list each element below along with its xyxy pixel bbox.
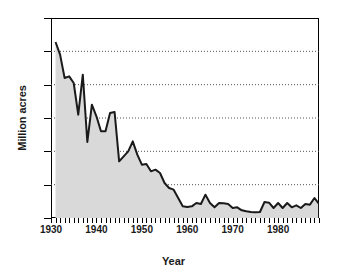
x-axis-tick-label: 1960	[167, 224, 207, 235]
x-axis-tick-mark	[228, 218, 229, 223]
x-axis-tick-mark	[301, 218, 302, 223]
x-axis-tick-mark	[314, 218, 315, 223]
x-axis-tick-mark	[305, 218, 306, 223]
x-axis-tick-mark	[74, 218, 75, 223]
y-axis-tick-mark	[44, 185, 51, 186]
x-axis-tick-label: 1930	[31, 224, 71, 235]
x-axis-tick-mark	[219, 218, 220, 223]
x-axis-tick-mark	[246, 218, 247, 223]
x-axis-tick-mark	[251, 218, 252, 223]
x-axis-tick-mark	[87, 218, 88, 223]
x-axis-tick-mark	[155, 218, 156, 223]
x-axis-tick-mark	[215, 218, 216, 223]
x-axis-tick-mark	[174, 218, 175, 223]
x-axis-tick-mark	[260, 218, 261, 223]
x-axis-tick-mark	[287, 218, 288, 223]
x-axis-tick-mark	[101, 218, 102, 223]
x-axis-tick-mark	[133, 218, 134, 223]
y-axis-tick-mark	[44, 218, 51, 219]
x-axis-tick-mark	[242, 218, 243, 223]
area-fill	[56, 42, 319, 218]
x-axis-tick-mark	[255, 218, 256, 223]
x-axis-tick-mark	[310, 218, 311, 223]
x-axis-tick-label: 1950	[122, 224, 162, 235]
chart-container: Million acres 0102030405060 193019401950…	[0, 0, 347, 280]
x-axis-tick-mark	[178, 218, 179, 223]
y-axis-title: Million acres	[16, 58, 28, 178]
x-axis-tick-mark	[196, 218, 197, 223]
x-axis-tick-mark	[96, 218, 97, 223]
x-axis-tick-mark	[110, 218, 111, 223]
x-axis-tick-mark	[274, 218, 275, 223]
x-axis-tick-mark	[142, 218, 143, 223]
x-axis-tick-label: 1970	[213, 224, 253, 235]
x-axis-tick-mark	[296, 218, 297, 223]
x-axis-title: Year	[0, 255, 347, 267]
x-axis-tick-mark	[187, 218, 188, 223]
y-axis-tick-mark	[44, 18, 51, 19]
x-axis-tick-mark	[205, 218, 206, 223]
x-axis-tick-mark	[319, 218, 320, 223]
x-axis-tick-mark	[201, 218, 202, 223]
x-axis-tick-mark	[56, 218, 57, 223]
x-axis-tick-mark	[264, 218, 265, 223]
y-axis-tick-mark	[44, 51, 51, 52]
x-axis-tick-mark	[237, 218, 238, 223]
x-axis-tick-mark	[78, 218, 79, 223]
x-axis-tick-mark	[92, 218, 93, 223]
x-axis-tick-label: 1980	[258, 224, 298, 235]
x-axis-tick-mark	[119, 218, 120, 223]
x-axis-tick-mark	[83, 218, 84, 223]
x-axis-tick-mark	[124, 218, 125, 223]
area-series	[51, 18, 319, 218]
x-axis-tick-mark	[146, 218, 147, 223]
x-axis-tick-mark	[106, 218, 107, 223]
x-axis-tick-mark	[65, 218, 66, 223]
x-axis-tick-mark	[169, 218, 170, 223]
y-axis-tick-mark	[44, 118, 51, 119]
x-axis-tick-label: 1940	[76, 224, 116, 235]
x-axis-tick-mark	[269, 218, 270, 223]
x-axis-tick-mark	[151, 218, 152, 223]
x-axis-tick-mark	[137, 218, 138, 223]
x-axis-tick-mark	[165, 218, 166, 223]
x-axis-tick-mark	[160, 218, 161, 223]
x-axis-tick-mark	[183, 218, 184, 223]
y-axis-tick-mark	[44, 85, 51, 86]
x-axis-tick-mark	[51, 218, 52, 223]
x-axis-tick-mark	[115, 218, 116, 223]
x-axis-tick-mark	[283, 218, 284, 223]
x-axis-tick-mark	[60, 218, 61, 223]
x-axis-tick-mark	[128, 218, 129, 223]
x-axis-tick-mark	[292, 218, 293, 223]
y-axis-tick-mark	[44, 151, 51, 152]
x-axis-tick-mark	[69, 218, 70, 223]
x-axis-tick-mark	[233, 218, 234, 223]
x-axis-tick-mark	[192, 218, 193, 223]
x-axis-tick-mark	[210, 218, 211, 223]
x-axis-tick-mark	[278, 218, 279, 223]
x-axis-tick-mark	[224, 218, 225, 223]
